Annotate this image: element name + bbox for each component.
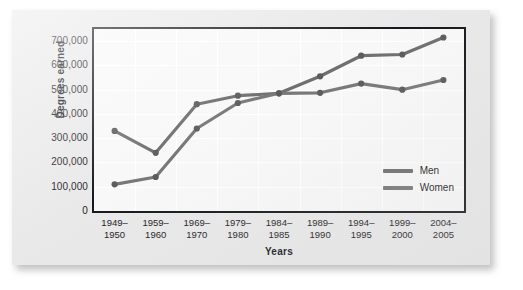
data-point-marker	[276, 90, 282, 96]
data-point-marker	[440, 34, 446, 40]
x-axis-tick-label: 1969–1970	[176, 217, 217, 241]
x-axis-tick-label-line: 1959–	[135, 217, 176, 229]
data-point-marker	[358, 53, 364, 59]
y-axis-tick-labels: 0100,000200,000300,000400,000500,000600,…	[24, 10, 88, 265]
x-axis-tick-label: 1984–1985	[258, 217, 299, 241]
legend-label: Women	[420, 183, 454, 193]
x-axis-tick-label: 1999–2000	[382, 217, 423, 241]
x-axis-tick-label-line: 2005	[423, 229, 464, 241]
data-point-marker	[440, 77, 446, 83]
data-point-marker	[358, 81, 364, 87]
x-axis-tick-label: 1949–1950	[94, 217, 135, 241]
x-axis-tick-labels: 1949–19501959–19601969–19701979–19801984…	[92, 217, 466, 249]
x-axis-tick-label: 1959–1960	[135, 217, 176, 241]
data-point-marker	[399, 87, 405, 93]
legend-item: Women	[383, 183, 454, 193]
data-point-marker	[153, 150, 159, 156]
x-axis-tick-label: 1994–1995	[341, 217, 382, 241]
plot-area: MenWomen	[92, 27, 466, 213]
x-axis-tick-label-line: 1970	[176, 229, 217, 241]
legend: MenWomen	[383, 166, 454, 193]
x-axis-tick-label-line: 2004–	[423, 217, 464, 229]
x-axis-tick-label: 1979–1980	[217, 217, 258, 241]
figure-root: Degrees earned 0100,000200,000300,000400…	[0, 0, 523, 290]
data-point-marker	[153, 174, 159, 180]
data-point-marker	[194, 101, 200, 107]
x-axis-tick-label-line: 1995	[341, 229, 382, 241]
x-axis-tick-label-line: 1980	[217, 229, 258, 241]
chart-card: Degrees earned 0100,000200,000300,000400…	[12, 10, 490, 265]
x-axis-tick-label-line: 1994–	[341, 217, 382, 229]
x-axis-tick-label: 2004–2005	[423, 217, 464, 241]
y-axis-tick-label: 200,000	[51, 157, 88, 167]
data-point-marker	[235, 93, 241, 99]
x-axis-tick-label-line: 1989–	[300, 217, 341, 229]
y-axis-tick-label: 500,000	[51, 85, 88, 95]
data-point-marker	[112, 128, 118, 134]
y-axis-tick-label: 0	[82, 206, 88, 216]
legend-label: Men	[420, 166, 439, 176]
data-point-marker	[399, 51, 405, 57]
x-axis-tick-label-line: 1990	[300, 229, 341, 241]
y-axis-tick-label: 700,000	[51, 36, 88, 46]
x-axis-tick-label-line: 1999–	[382, 217, 423, 229]
data-point-marker	[112, 181, 118, 187]
data-point-marker	[317, 73, 323, 79]
y-axis-tick-label: 100,000	[51, 182, 88, 192]
x-axis-tick-label: 1989–1990	[300, 217, 341, 241]
y-axis-tick-label: 400,000	[51, 109, 88, 119]
x-axis-tick-label-line: 1979–	[217, 217, 258, 229]
x-axis-tick-label-line: 1960	[135, 229, 176, 241]
x-axis-tick-label-line: 1950	[94, 229, 135, 241]
data-point-marker	[317, 90, 323, 96]
y-axis-tick-label: 300,000	[51, 133, 88, 143]
legend-swatch	[383, 186, 413, 190]
legend-item: Men	[383, 166, 454, 176]
data-point-marker	[235, 100, 241, 106]
data-point-marker	[194, 125, 200, 131]
x-axis-tick-label-line: 1969–	[176, 217, 217, 229]
x-axis-tick-label-line: 2000	[382, 229, 423, 241]
x-axis-title: Years	[92, 246, 466, 257]
x-axis-tick-label-line: 1949–	[94, 217, 135, 229]
legend-swatch	[383, 169, 413, 173]
x-axis-tick-label-line: 1984–	[258, 217, 299, 229]
y-axis-tick-label: 600,000	[51, 60, 88, 70]
x-axis-tick-label-line: 1985	[258, 229, 299, 241]
